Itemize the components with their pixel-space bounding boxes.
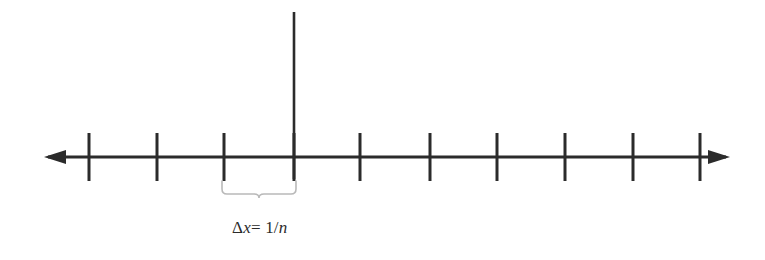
delta-symbol: Δ — [232, 218, 243, 237]
fraction-denominator: n — [279, 218, 288, 237]
number-line-svg — [0, 0, 765, 260]
equals-sign: = — [251, 218, 261, 237]
figure-background — [0, 0, 765, 260]
variable-x: x — [243, 218, 251, 237]
fraction-numerator: 1/ — [265, 218, 279, 237]
number-line-figure: Δx= 1/n — [0, 0, 765, 260]
delta-x-label: Δx= 1/n — [232, 218, 287, 238]
